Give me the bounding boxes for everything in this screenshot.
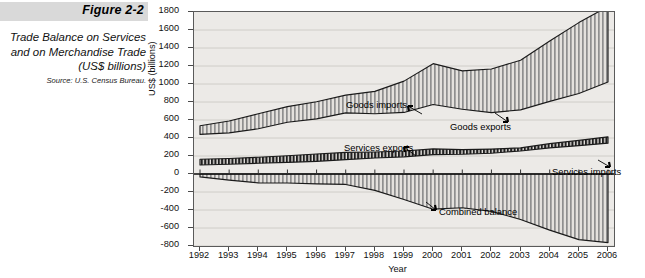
x-tick-mark	[520, 247, 521, 251]
plot-svg	[194, 12, 614, 246]
plot-frame	[193, 11, 615, 247]
y-tick-label: -600	[151, 222, 179, 231]
x-tick-mark	[316, 247, 317, 251]
figure-number: Figure 2-2	[82, 3, 144, 17]
x-tick-mark	[257, 247, 258, 251]
band-combined-balance	[200, 174, 608, 243]
x-tick-mark	[374, 247, 375, 251]
x-tick-mark	[286, 247, 287, 251]
annotation-goods-imports: Goods imports	[346, 99, 407, 110]
y-tick-label: 1800	[151, 6, 179, 15]
y-tick-label: 1600	[151, 24, 179, 33]
series-bands	[200, 12, 608, 243]
figure-page: Figure 2-2 Trade Balance on Services and…	[0, 0, 645, 278]
annotation-services-imports: Services imports	[552, 166, 621, 177]
x-tick-mark	[607, 247, 608, 251]
figure-title-line-2: and on Merchandise Trade	[0, 45, 146, 60]
figure-caption-block: Figure 2-2 Trade Balance on Services and…	[0, 0, 150, 120]
y-tick-label: 400	[151, 132, 179, 141]
x-tick-mark	[578, 247, 579, 251]
chart: US$ (billions) 1800160014001200100080060…	[150, 0, 645, 278]
y-tick-label: 600	[151, 114, 179, 123]
x-tick-mark	[490, 247, 491, 251]
x-tick-mark	[228, 247, 229, 251]
x-tick-mark	[461, 247, 462, 251]
x-tick-mark	[403, 247, 404, 251]
x-tick-mark	[345, 247, 346, 251]
y-tick-label: -400	[151, 204, 179, 213]
x-tick-mark	[432, 247, 433, 251]
y-tick-label: 800	[151, 96, 179, 105]
x-tick-mark	[549, 247, 550, 251]
x-axis-title: Year	[150, 264, 645, 274]
y-tick-label: 1000	[151, 78, 179, 87]
y-tick-label: 1200	[151, 60, 179, 69]
figure-title: Trade Balance on Services and on Merchan…	[0, 30, 146, 74]
annotation-goods-exports: Goods exports	[450, 121, 511, 132]
y-tick-label: 1400	[151, 42, 179, 51]
y-tick-label: 200	[151, 150, 179, 159]
annotation-services-exports: Services exports	[344, 142, 413, 153]
figure-source: Source: U.S. Census Bureau.	[0, 76, 146, 85]
annotation-combined-balance: Combined balance	[439, 206, 517, 217]
y-tick-label: -800	[151, 240, 179, 249]
x-tick-mark	[199, 247, 200, 251]
figure-title-line-3: (US$ billions)	[0, 59, 146, 74]
x-tick-label: 2006	[587, 250, 627, 260]
figure-title-line-1: Trade Balance on Services	[0, 30, 146, 45]
y-tick-label: 0	[151, 168, 179, 177]
y-tick-label: -200	[151, 186, 179, 195]
